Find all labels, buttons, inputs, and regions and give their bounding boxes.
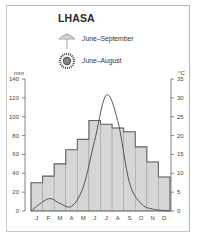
right-tick-label: 5 <box>177 189 181 195</box>
temperature-bar <box>101 124 113 211</box>
left-tick-label: 120 <box>9 95 20 101</box>
climate-chart: mm °C 020406080100120140 05101520253035 … <box>0 0 199 239</box>
month-label: A <box>70 215 74 221</box>
temperature-bar <box>43 176 55 211</box>
right-axis: 05101520253035 <box>171 76 184 214</box>
month-label: J <box>93 215 96 221</box>
left-tick-label: 20 <box>12 189 19 195</box>
temperature-bar <box>89 120 101 211</box>
month-label: M <box>81 215 86 221</box>
month-label: A <box>116 215 120 221</box>
right-tick-label: 35 <box>177 76 184 82</box>
right-tick-label: 15 <box>177 151 184 157</box>
temperature-bars <box>31 120 171 211</box>
right-tick-label: 30 <box>177 95 184 101</box>
temperature-bar <box>77 139 89 211</box>
temperature-bar <box>124 132 136 211</box>
right-tick-label: 25 <box>177 114 184 120</box>
sun-icon <box>60 54 74 68</box>
month-label: M <box>57 215 62 221</box>
umbrella-icon <box>59 33 75 49</box>
right-tick-label: 20 <box>177 133 184 139</box>
left-tick-label: 80 <box>12 133 19 139</box>
temperature-bar <box>158 177 170 211</box>
temperature-bar <box>147 162 159 211</box>
month-label: F <box>47 215 51 221</box>
month-label: S <box>127 215 131 221</box>
right-tick-label: 0 <box>177 208 181 214</box>
month-label: J <box>105 215 108 221</box>
month-label: N <box>150 215 154 221</box>
left-tick-label: 0 <box>16 208 20 214</box>
month-labels: JFMAMJJASOND <box>35 215 167 221</box>
month-label: J <box>35 215 38 221</box>
temperature-bar <box>135 147 147 211</box>
month-label: D <box>162 215 167 221</box>
left-axis: 020406080100120140 <box>9 76 25 214</box>
month-label: O <box>139 215 144 221</box>
left-tick-label: 40 <box>12 170 19 176</box>
left-tick-label: 60 <box>12 151 19 157</box>
left-tick-label: 140 <box>9 76 20 82</box>
left-tick-label: 100 <box>9 114 20 120</box>
right-tick-label: 10 <box>177 170 184 176</box>
